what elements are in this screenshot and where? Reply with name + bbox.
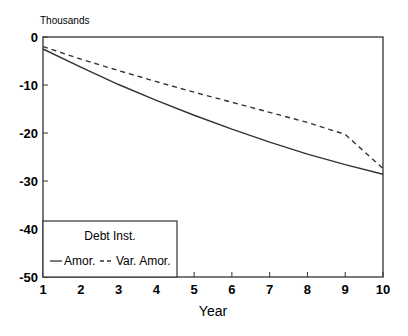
- y-tick-label: -50: [19, 270, 38, 285]
- legend-title: Debt Inst.: [84, 229, 135, 243]
- legend-entry-var-amor: Var. Amor.: [116, 254, 170, 268]
- legend-entry-amor: Amor.: [64, 254, 95, 268]
- x-tick-label: 3: [115, 282, 122, 297]
- legend: Debt Inst. Amor. Var. Amor.: [43, 221, 177, 277]
- x-tick-label: 2: [77, 282, 84, 297]
- x-tick-label: 1: [39, 282, 46, 297]
- line-chart: Thousands 0-10-20-30-40-50 12345678910 Y…: [0, 0, 408, 336]
- y-tick-label: -10: [19, 78, 38, 93]
- x-tick-label: 6: [228, 282, 235, 297]
- y-tick-label: -40: [19, 222, 38, 237]
- x-tick-label: 8: [304, 282, 311, 297]
- y-tick-label: -20: [19, 126, 38, 141]
- x-tick-label: 7: [266, 282, 273, 297]
- x-tick-label: 4: [153, 282, 161, 297]
- x-tick-label: 10: [376, 282, 390, 297]
- x-tick-label: 9: [342, 282, 349, 297]
- y-tick-label: -30: [19, 174, 38, 189]
- y-tick-label: 0: [31, 30, 38, 45]
- x-tick-label: 5: [190, 282, 197, 297]
- x-axis-title: Year: [199, 303, 228, 319]
- unit-label: Thousands: [40, 15, 89, 26]
